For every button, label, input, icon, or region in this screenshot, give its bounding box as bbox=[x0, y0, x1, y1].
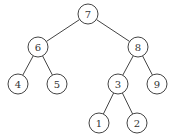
tree-edge-6-5 bbox=[43, 56, 53, 75]
tree-edge-8-9 bbox=[143, 56, 153, 75]
tree-node-5: 5 bbox=[47, 74, 67, 94]
tree-edge-8-3 bbox=[123, 56, 133, 75]
node-label: 4 bbox=[15, 79, 21, 90]
node-label: 6 bbox=[35, 42, 41, 53]
tree-node-9: 9 bbox=[147, 74, 167, 94]
binary-tree-diagram: 768453912 bbox=[0, 0, 175, 139]
node-label: 5 bbox=[54, 79, 60, 90]
node-label: 8 bbox=[135, 42, 141, 53]
node-label: 1 bbox=[96, 118, 102, 129]
tree-edge-3-1 bbox=[103, 93, 113, 114]
node-label: 9 bbox=[154, 79, 160, 90]
tree-node-7: 7 bbox=[78, 4, 98, 24]
tree-edges bbox=[23, 20, 153, 115]
tree-edge-7-6 bbox=[46, 20, 79, 42]
tree-node-3: 3 bbox=[108, 74, 128, 94]
tree-node-8: 8 bbox=[128, 37, 148, 57]
tree-node-4: 4 bbox=[8, 74, 28, 94]
node-label: 3 bbox=[115, 79, 121, 90]
node-label: 2 bbox=[134, 118, 140, 129]
node-label: 7 bbox=[85, 9, 91, 20]
tree-edge-3-2 bbox=[122, 93, 132, 114]
tree-node-2: 2 bbox=[127, 113, 147, 133]
tree-edge-7-8 bbox=[96, 20, 129, 42]
tree-nodes: 768453912 bbox=[8, 4, 167, 133]
tree-edge-6-4 bbox=[23, 56, 33, 75]
tree-node-6: 6 bbox=[28, 37, 48, 57]
tree-node-1: 1 bbox=[89, 113, 109, 133]
